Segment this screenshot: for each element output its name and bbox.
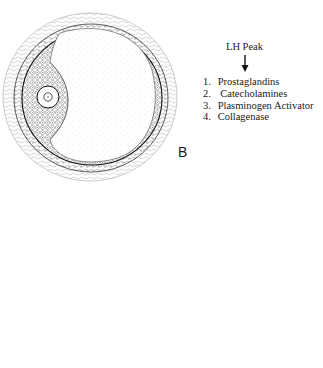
lh-peak-label: LH Peak xyxy=(226,41,263,52)
ovulation-factor-list: 1. Prostaglandins 2. Catecholamines 3. P… xyxy=(203,76,314,123)
factor-item: 2. Catecholamines xyxy=(203,88,314,100)
factor-item: 4. Collagenase xyxy=(203,111,314,123)
follicle-illustration xyxy=(0,0,185,190)
down-arrow-icon xyxy=(240,55,250,73)
factor-item: 1. Prostaglandins xyxy=(203,76,314,88)
factor-item: 3. Plasminogen Activator xyxy=(203,100,314,112)
panel-label: B xyxy=(178,144,187,160)
